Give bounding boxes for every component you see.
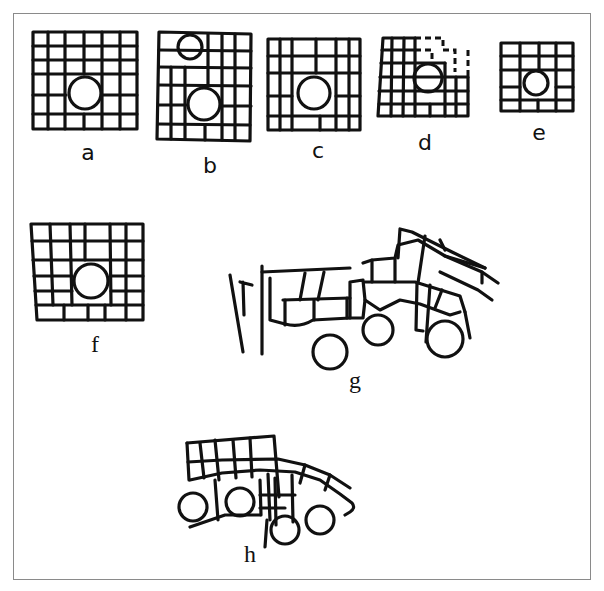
panel-h-plan [179, 436, 354, 547]
panel-g-label: g [349, 367, 361, 393]
panel-h-label: h [244, 541, 256, 567]
panel-c-label: c [312, 138, 324, 163]
panel-f-grid [31, 224, 143, 320]
panel-d-label: d [418, 130, 432, 155]
panel-d-grid [378, 38, 468, 116]
panel-e-grid [501, 43, 573, 111]
panel-c-grid [268, 39, 360, 130]
diagram-canvas: a b c [0, 0, 604, 591]
panel-a-grid [33, 32, 137, 129]
panel-b-grid [157, 32, 251, 141]
panel-a-label: a [81, 140, 94, 165]
panel-g-plan [230, 229, 498, 369]
panel-e-label: e [532, 120, 546, 145]
panel-f-label: f [91, 331, 99, 357]
panel-b-label: b [203, 153, 217, 178]
